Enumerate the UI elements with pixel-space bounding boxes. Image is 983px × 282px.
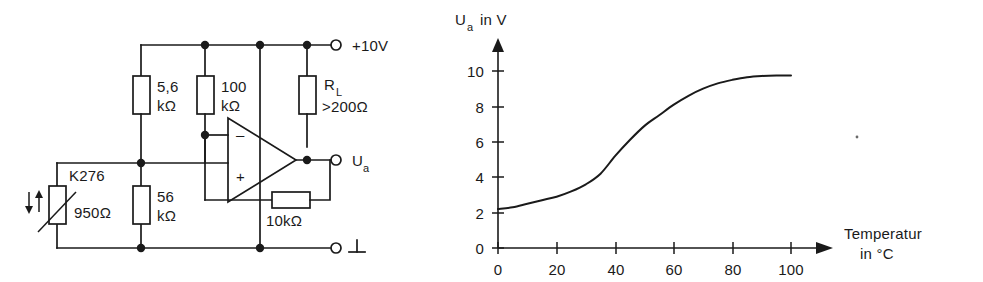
x-axis-tick-labels: 0 20 40 60 80 100 <box>494 261 804 278</box>
x-tick-label: 100 <box>778 261 804 278</box>
figure-root: 5,6 kΩ 100 kΩ R L >200Ω – + <box>0 0 983 282</box>
x-axis-arrowhead <box>816 242 833 254</box>
x-axis-label-line1: Temperatur <box>844 225 922 242</box>
terminal-ground-circle[interactable] <box>331 243 341 253</box>
y-axis-tick-labels: 0 2 4 6 8 10 <box>467 63 484 257</box>
circuit-svg: 5,6 kΩ 100 kΩ R L >200Ω – + <box>0 0 440 282</box>
x-axis-label-line2: in °C <box>860 245 894 262</box>
node-dot <box>303 156 311 164</box>
node-dot <box>201 41 209 49</box>
node-dot <box>201 131 209 139</box>
feedback-right-riser-wire <box>310 160 330 200</box>
node-dot <box>256 244 264 252</box>
characteristic-curve-chart: U a in V 0 2 4 6 8 <box>440 0 983 282</box>
x-tick-label: 0 <box>494 261 503 278</box>
chart-svg: U a in V 0 2 4 6 8 <box>440 0 983 282</box>
resistor-rl-body <box>299 76 316 114</box>
node-dot <box>303 41 311 49</box>
resistor-5k6-value: 5,6 <box>157 78 178 95</box>
y-tick-label: 4 <box>475 169 484 186</box>
resistor-5k6-unit: kΩ <box>157 97 176 114</box>
x-tick-label: 80 <box>724 261 741 278</box>
y-axis-label-subscript: a <box>467 21 474 33</box>
resistor-10k-value: 10kΩ <box>266 212 302 229</box>
resistor-10k-body <box>272 192 310 208</box>
thermistor-type-label: K276 <box>69 167 105 184</box>
ground-symbol-icon <box>349 240 365 252</box>
x-tick-label: 20 <box>548 261 565 278</box>
opamp-noninverting-label: + <box>236 168 245 185</box>
resistor-56k-body <box>133 186 150 224</box>
resistor-5k6-body <box>133 76 150 114</box>
terminal-supply-label: +10V <box>352 37 388 54</box>
resistor-56k-value: 56 <box>157 188 174 205</box>
y-tick-label: 10 <box>467 63 484 80</box>
resistor-rl-value: >200Ω <box>322 98 368 115</box>
resistor-100k-value: 100 <box>221 78 247 95</box>
thermistor-arrows-icon <box>25 190 43 214</box>
terminal-output-label: U <box>352 152 363 169</box>
y-tick-label: 0 <box>475 240 484 257</box>
opamp-inverting-label: – <box>236 126 245 143</box>
resistor-100k-unit: kΩ <box>221 97 240 114</box>
scan-speck <box>856 136 859 139</box>
resistor-rl-subscript: L <box>336 86 342 98</box>
y-tick-label: 2 <box>475 205 484 222</box>
x-tick-label: 60 <box>665 261 682 278</box>
curve-ua-vs-temperature <box>498 75 791 209</box>
resistor-100k-body <box>197 76 214 114</box>
x-tick-label: 40 <box>607 261 624 278</box>
y-axis-arrowhead <box>492 38 504 52</box>
node-dot <box>137 244 145 252</box>
thermistor-value-label: 950Ω <box>74 204 111 221</box>
y-tick-label: 6 <box>475 134 484 151</box>
y-tick-label: 8 <box>475 99 484 116</box>
circuit-schematic: 5,6 kΩ 100 kΩ R L >200Ω – + <box>0 0 440 282</box>
y-axis-label-rest: in V <box>480 11 507 28</box>
resistor-56k-unit: kΩ <box>157 207 176 224</box>
node-dot <box>137 159 145 167</box>
y-axis-label-main: U <box>455 11 466 28</box>
resistor-rl-name: R <box>324 76 335 93</box>
terminal-supply-circle[interactable] <box>331 40 341 50</box>
node-dot <box>256 41 264 49</box>
terminal-output-circle[interactable] <box>331 155 341 165</box>
terminal-output-subscript: a <box>363 162 370 174</box>
